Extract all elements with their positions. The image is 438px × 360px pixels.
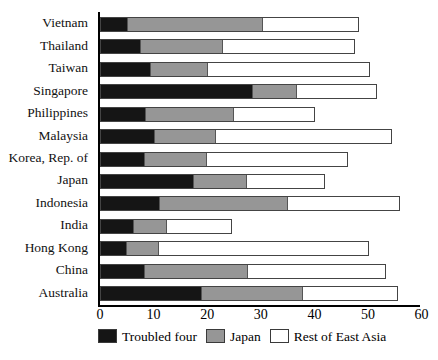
bar-segment-rest-of-east-asia	[297, 85, 376, 98]
category-label: Hong Kong	[0, 241, 88, 255]
chart-legend: Troubled fourJapanRest of East Asia	[98, 326, 395, 346]
bar-segment-rest-of-east-asia	[247, 175, 324, 188]
bar-segment-troubled-four	[101, 63, 150, 76]
bar-segment-troubled-four	[101, 85, 252, 98]
bar-segment-troubled-four	[101, 108, 145, 121]
troubled-swatch	[98, 329, 117, 343]
category-label: Philippines	[0, 106, 88, 120]
bar-segment-troubled-four	[101, 265, 144, 278]
bar-segment-troubled-four	[101, 242, 126, 255]
bar-segment-japan	[201, 287, 303, 300]
category-label: Singapore	[0, 84, 88, 98]
bar-segment-rest-of-east-asia	[263, 18, 359, 31]
bar-row	[100, 241, 369, 256]
bar-segment-troubled-four	[101, 287, 201, 300]
bar-segment-japan	[133, 220, 168, 233]
stacked-bar-chart: VietnamThailandTaiwanSingaporePhilippine…	[0, 0, 438, 360]
bar-segment-japan	[144, 153, 206, 166]
bar-segment-rest-of-east-asia	[216, 130, 392, 143]
bar-segment-rest-of-east-asia	[223, 40, 355, 53]
legend-label: Rest of East Asia	[294, 329, 387, 344]
bar-row	[100, 107, 315, 122]
bar-segment-rest-of-east-asia	[248, 265, 386, 278]
bar-segment-troubled-four	[101, 18, 127, 31]
x-tick-label: 10	[147, 307, 161, 323]
bar-segment-rest-of-east-asia	[159, 242, 368, 255]
bar-row	[100, 152, 348, 167]
bar-segment-rest-of-east-asia	[303, 287, 399, 300]
category-label: Thailand	[0, 39, 88, 53]
bar-segment-troubled-four	[101, 130, 154, 143]
bar-row	[100, 196, 400, 211]
bar-row	[100, 84, 377, 99]
plot-area	[100, 13, 438, 305]
bar-row	[100, 39, 355, 54]
bar-segment-japan	[252, 85, 297, 98]
bar-segment-troubled-four	[101, 197, 159, 210]
y-axis-category-labels: VietnamThailandTaiwanSingaporePhilippine…	[0, 13, 94, 305]
bar-segment-troubled-four	[101, 175, 193, 188]
bar-segment-rest-of-east-asia	[208, 63, 370, 76]
x-tick-label: 0	[97, 307, 104, 323]
bar-segment-japan	[154, 130, 217, 143]
legend-label: Troubled four	[122, 329, 197, 344]
bar-segment-rest-of-east-asia	[288, 197, 400, 210]
bar-row	[100, 174, 325, 189]
category-label: Japan	[0, 173, 88, 187]
bar-row	[100, 62, 370, 77]
bar-segment-japan	[144, 265, 248, 278]
bar-segment-troubled-four	[101, 40, 140, 53]
x-tick-label: 40	[307, 307, 321, 323]
bar-segment-rest-of-east-asia	[234, 108, 316, 121]
rest-swatch	[270, 329, 289, 343]
bar-segment-japan	[145, 108, 233, 121]
category-label: Vietnam	[0, 16, 88, 30]
bar-segment-troubled-four	[101, 153, 144, 166]
legend-item: Japan	[206, 329, 261, 344]
x-axis-tick-labels: 0102030405060	[100, 307, 438, 325]
bar-row	[100, 264, 386, 279]
bar-segment-japan	[140, 40, 224, 53]
category-label: Indonesia	[0, 196, 88, 210]
bar-row	[100, 219, 232, 234]
x-tick-label: 30	[254, 307, 268, 323]
category-label: Australia	[0, 286, 88, 300]
legend-label: Japan	[230, 329, 261, 344]
x-tick-label: 20	[200, 307, 214, 323]
bar-segment-rest-of-east-asia	[167, 220, 231, 233]
bar-segment-japan	[150, 63, 208, 76]
bar-segment-japan	[127, 18, 263, 31]
x-tick-label: 60	[415, 307, 429, 323]
legend-item: Rest of East Asia	[270, 329, 387, 344]
bar-row	[100, 17, 359, 32]
bar-segment-japan	[126, 242, 159, 255]
category-label: China	[0, 263, 88, 277]
bar-segment-troubled-four	[101, 220, 133, 233]
category-label: Taiwan	[0, 61, 88, 75]
bar-segment-japan	[159, 197, 288, 210]
category-label: India	[0, 218, 88, 232]
bar-segment-rest-of-east-asia	[207, 153, 348, 166]
bar-row	[100, 286, 398, 301]
japan-swatch	[206, 329, 225, 343]
x-tick-label: 50	[361, 307, 375, 323]
category-label: Korea, Rep. of	[0, 151, 88, 165]
legend-item: Troubled four	[98, 329, 197, 344]
category-label: Malaysia	[0, 129, 88, 143]
bar-segment-japan	[193, 175, 248, 188]
bar-row	[100, 129, 392, 144]
